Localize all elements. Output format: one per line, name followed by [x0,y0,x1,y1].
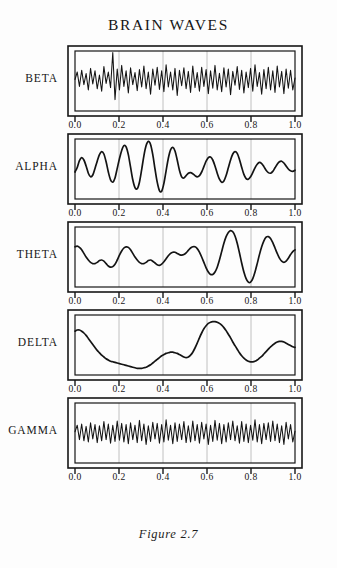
x-tick-label: 0.0 [68,119,81,130]
waveform-panel-theta: 0.00.20.40.60.81.0 [64,220,306,308]
panel-stack: BETA0.00.20.40.60.81.0ALPHA0.00.20.40.60… [0,44,337,484]
x-tick-label: 0.4 [156,471,169,482]
band-row-delta: DELTA0.00.20.40.60.81.0 [0,308,337,396]
x-tick-label: 0.6 [200,471,213,482]
x-tick-label: 1.0 [288,119,301,130]
x-tick-label: 0.6 [200,119,213,130]
page-title: BRAIN WAVES [0,16,337,34]
band-label-gamma: GAMMA [0,424,58,436]
waveform-panel-gamma: 0.00.20.40.60.81.0 [64,396,306,484]
waveform-panel-beta: 0.00.20.40.60.81.0 [64,44,306,132]
x-tick-label: 0.0 [68,207,81,218]
x-tick-label: 0.0 [68,471,81,482]
waveform-svg-theta: 0.00.20.40.60.81.0 [64,220,306,308]
x-tick-label: 0.2 [112,207,125,218]
x-tick-label: 1.0 [288,207,301,218]
plot-background [75,227,295,287]
x-tick-label: 0.6 [200,295,213,306]
band-label-alpha: ALPHA [0,160,58,172]
x-tick-label: 0.6 [200,383,213,394]
band-row-beta: BETA0.00.20.40.60.81.0 [0,44,337,132]
x-tick-label: 0.2 [112,295,125,306]
x-tick-label: 0.8 [244,383,257,394]
x-tick-label: 0.2 [112,471,125,482]
x-tick-label: 0.2 [112,119,125,130]
x-tick-label: 0.0 [68,383,81,394]
x-tick-label: 0.4 [156,295,169,306]
figure-root: BRAIN WAVES BETA0.00.20.40.60.81.0ALPHA0… [0,0,337,568]
x-tick-label: 0.4 [156,207,169,218]
figure-caption: Figure 2.7 [0,527,337,542]
band-row-gamma: GAMMA0.00.20.40.60.81.0 [0,396,337,484]
x-tick-label: 0.4 [156,383,169,394]
waveform-panel-alpha: 0.00.20.40.60.81.0 [64,132,306,220]
band-label-beta: BETA [0,72,58,84]
waveform-svg-gamma: 0.00.20.40.60.81.0 [64,396,306,484]
x-tick-label: 1.0 [288,295,301,306]
waveform-panel-delta: 0.00.20.40.60.81.0 [64,308,306,396]
waveform-svg-beta: 0.00.20.40.60.81.0 [64,44,306,132]
waveform-svg-alpha: 0.00.20.40.60.81.0 [64,132,306,220]
waveform-svg-delta: 0.00.20.40.60.81.0 [64,308,306,396]
x-tick-label: 0.2 [112,383,125,394]
plot-background [75,315,295,375]
x-tick-label: 0.6 [200,207,213,218]
x-tick-label: 0.8 [244,295,257,306]
x-tick-label: 0.8 [244,471,257,482]
band-row-alpha: ALPHA0.00.20.40.60.81.0 [0,132,337,220]
x-tick-label: 0.8 [244,207,257,218]
x-tick-label: 1.0 [288,471,301,482]
band-label-delta: DELTA [0,336,58,348]
x-tick-label: 0.8 [244,119,257,130]
x-tick-label: 0.4 [156,119,169,130]
band-row-theta: THETA0.00.20.40.60.81.0 [0,220,337,308]
x-tick-label: 0.0 [68,295,81,306]
band-label-theta: THETA [0,248,58,260]
x-tick-label: 1.0 [288,383,301,394]
